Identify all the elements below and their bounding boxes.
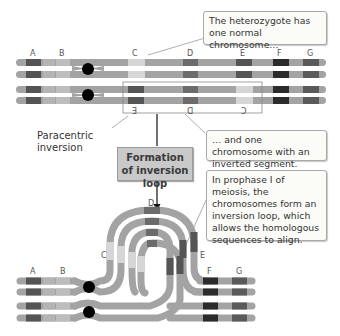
loop-label-e: E: [200, 252, 205, 260]
paracentric-inversion-label: Paracentric inversion: [37, 130, 107, 154]
loop-label-f: F: [207, 268, 212, 276]
band-label-c: C: [132, 50, 138, 58]
loop-label-d: D: [148, 200, 154, 208]
inverted-label-c: C: [241, 105, 247, 113]
band-label-g: G: [307, 50, 313, 58]
inverted-chromosome: [16, 86, 326, 104]
loop-label-a: A: [30, 268, 35, 276]
callout-normal-chromosome: The heterozygote has one normal chromoso…: [203, 11, 327, 45]
centromere-icon: [83, 306, 95, 318]
normal-chromosome: [16, 59, 326, 78]
centromere-icon: [82, 63, 94, 75]
centromere-icon: [83, 281, 95, 293]
band-label-f: F: [277, 50, 282, 58]
callout-inversion-loop: In prophase I of meiosis, the chromosome…: [206, 170, 327, 241]
formation-step-box: Formation of inversion loop: [117, 147, 193, 181]
loop-label-b: B: [60, 268, 66, 276]
loop-label-c: C: [101, 252, 107, 260]
band-label-a: A: [30, 50, 35, 58]
band-label-b: B: [59, 50, 65, 58]
loop-label-g: G: [236, 268, 242, 276]
inverted-label-e: E: [132, 105, 137, 113]
band-label-d: D: [187, 50, 193, 58]
inversion-diagram: A B C D E F G E D C A B C D E F G The he…: [0, 0, 340, 336]
inverted-label-d: D: [187, 105, 193, 113]
band-label-e: E: [240, 50, 245, 58]
callout-inverted-chromosome: … and one chromosome with an inverted se…: [206, 130, 327, 161]
centromere-icon: [82, 89, 94, 101]
